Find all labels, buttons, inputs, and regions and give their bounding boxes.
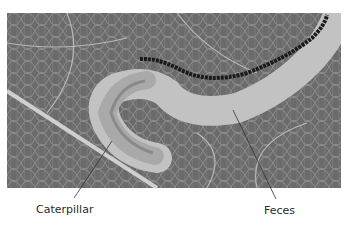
caterpillar-leader [74, 141, 112, 198]
caterpillar-label: Caterpillar [36, 203, 93, 216]
leader-lines [0, 0, 348, 226]
feces-label: Feces [264, 204, 295, 217]
feces-leader [233, 110, 276, 199]
